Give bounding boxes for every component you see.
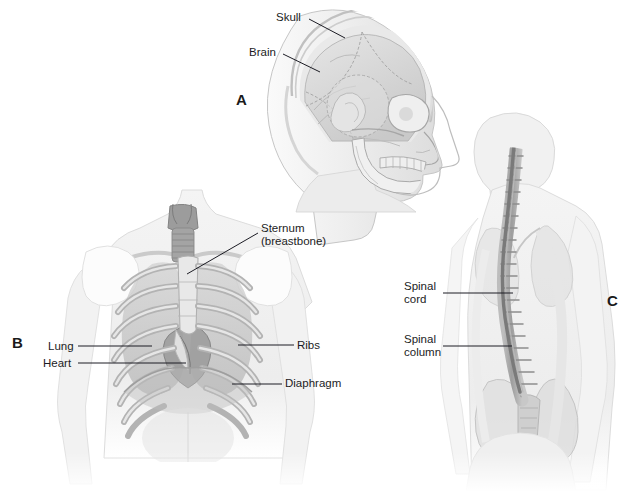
- label-heart: Heart: [43, 357, 71, 370]
- label-spinal-cord: Spinal cord: [404, 280, 436, 306]
- label-ribs: Ribs: [297, 339, 320, 352]
- panel-letter-a: A: [236, 91, 247, 108]
- label-spinal-column: Spinal column: [404, 333, 441, 359]
- label-skull: Skull: [276, 11, 301, 24]
- panel-letter-b: B: [12, 334, 23, 351]
- panel-c-back-illustration: [430, 113, 630, 491]
- panel-a-head-illustration: [267, 10, 459, 245]
- label-lung: Lung: [48, 340, 74, 353]
- label-brain: Brain: [249, 46, 276, 59]
- panel-letter-c: C: [607, 292, 618, 309]
- label-diaphragm: Diaphragm: [285, 377, 341, 390]
- label-sternum: Sternum (breastbone): [261, 222, 326, 248]
